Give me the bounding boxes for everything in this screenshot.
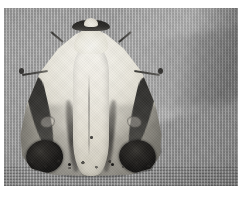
photo-vignette [4, 8, 238, 186]
photograph [4, 8, 238, 186]
screenshot-root [0, 0, 248, 199]
